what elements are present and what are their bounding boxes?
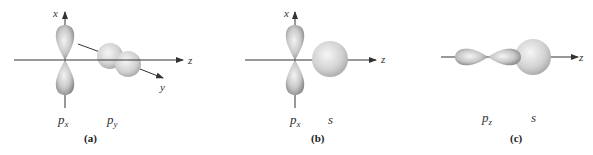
panel-a xyxy=(14,12,183,108)
axis-label-z: z xyxy=(579,52,583,63)
orbital-label-pz: pz xyxy=(482,111,492,127)
orbital-label-px: px xyxy=(58,113,69,129)
py-lobe-front xyxy=(115,51,141,77)
axis-label-x: x xyxy=(284,8,289,19)
px-lobe-bottom xyxy=(286,60,304,95)
panel-c xyxy=(441,39,578,75)
orbital-label-s: s xyxy=(531,111,536,127)
orbital-label-px: px xyxy=(290,113,301,129)
px-lobe-top xyxy=(286,25,304,60)
s-orbital xyxy=(312,41,348,77)
panel-caption-c: (c) xyxy=(510,133,522,144)
orbital-overlap-figure: x z y px py (a) x z px s (b) z pz s (c) xyxy=(0,0,593,155)
y-axis-back xyxy=(78,44,100,52)
pz-lobe-right xyxy=(488,49,521,65)
axis-label-z: z xyxy=(381,54,385,65)
axis-label-y: y xyxy=(160,82,165,93)
orbital-label-py: py xyxy=(107,113,118,129)
panel-b xyxy=(245,12,376,108)
px-lobe-bottom xyxy=(56,60,74,95)
orbital-label-s: s xyxy=(328,113,333,129)
pz-lobe-left xyxy=(455,49,488,65)
panel-caption-b: (b) xyxy=(311,133,324,144)
y-axis-front xyxy=(140,69,163,78)
px-lobe-top xyxy=(56,25,74,60)
axis-label-z: z xyxy=(188,55,192,66)
axis-label-x: x xyxy=(53,8,58,19)
panel-caption-a: (a) xyxy=(84,133,97,144)
